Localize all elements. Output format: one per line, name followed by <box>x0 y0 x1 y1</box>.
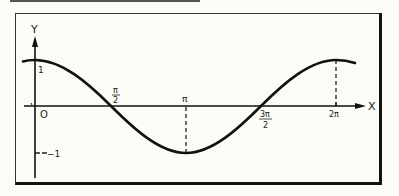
x-tick-label-pi-half-den: 2 <box>113 96 118 105</box>
x-tick-label-2pi: 2π <box>329 110 339 119</box>
x-tick-label-3pi-half-num: 3π <box>260 110 270 119</box>
x-tick-label-3pi-half-den: 2 <box>263 121 268 130</box>
origin-tick <box>31 103 32 105</box>
y-tick-label-minus-one: −1 <box>47 149 60 159</box>
x-axis-arrow-icon <box>355 103 366 109</box>
y-tick-label-one: 1 <box>38 65 44 75</box>
x-tick-label-pi-half-num: π <box>113 86 118 95</box>
y-axis-label: Y <box>30 23 38 36</box>
x-axis-label: X <box>368 100 376 113</box>
x-tick-label-pi: π <box>182 94 188 104</box>
origin-label: O <box>40 109 48 120</box>
cosine-chart: Y X 1 O −1 π 2 π 3π 2 2π <box>0 0 399 196</box>
y-axis-arrow-icon <box>32 36 38 47</box>
